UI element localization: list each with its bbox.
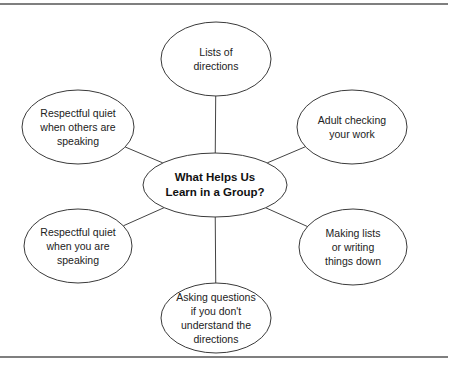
connector-top-left	[125, 147, 163, 163]
label-line: things down	[325, 255, 381, 267]
concept-web-diagram: Lists ofdirectionsRespectful quietwhen o…	[0, 0, 453, 377]
node-bottom: Asking questionsif you don'tunderstand t…	[161, 283, 271, 353]
label-line: if you don't	[191, 305, 242, 317]
label-line: speaking	[57, 254, 99, 266]
label-line: Respectful quiet	[40, 107, 115, 119]
node-bottom-right: Making listsor writingthings down	[299, 209, 407, 285]
node-top-right: Adult checkingyour work	[297, 90, 407, 164]
connector-bottom-left	[123, 208, 164, 226]
label-line: Adult checking	[318, 114, 386, 126]
label-line: when others are	[39, 121, 115, 133]
label-line: Lists of	[199, 46, 232, 58]
label-line: or writing	[332, 241, 375, 253]
label-line: Learn in a Group?	[165, 186, 264, 198]
label-line: your work	[329, 128, 375, 140]
center-node: What Helps UsLearn in a Group?	[143, 153, 287, 217]
label-line: directions	[194, 333, 239, 345]
node-label: Making listsor writingthings down	[325, 227, 381, 267]
label-line: when you are	[45, 240, 109, 252]
label-line: Making lists	[326, 227, 381, 239]
connector-top-right	[267, 147, 305, 163]
label-line: What Helps Us	[175, 171, 256, 183]
node-bottom-left: Respectful quietwhen you arespeaking	[24, 209, 132, 283]
label-line: Respectful quiet	[40, 226, 115, 238]
label-line: speaking	[57, 135, 99, 147]
connector-bottom-right	[266, 208, 308, 227]
label-line: directions	[194, 60, 239, 72]
node-top: Lists ofdirections	[161, 22, 271, 96]
label-line: Asking questions	[176, 291, 255, 303]
center-ellipse	[143, 153, 287, 217]
node-top-left: Respectful quietwhen others arespeaking	[22, 90, 134, 164]
label-line: understand the	[181, 319, 251, 331]
